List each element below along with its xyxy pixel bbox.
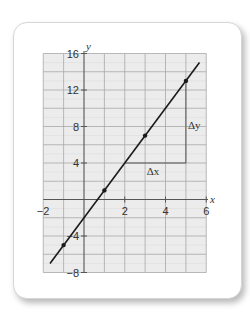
- data-point: [143, 133, 147, 137]
- y-axis-label: y: [85, 40, 91, 52]
- line-chart: −2 2 4 6 16 12 8 4 −4 −8 x y Δx Δy: [0, 0, 250, 312]
- y-tick-label: 16: [67, 48, 79, 60]
- data-point: [102, 188, 106, 192]
- data-point: [61, 243, 65, 247]
- delta-x-label: Δx: [147, 165, 160, 177]
- x-tick-label: 2: [122, 205, 128, 217]
- y-tick-label: −4: [66, 230, 79, 242]
- x-tick-label: 6: [203, 205, 209, 217]
- x-axis-label: x: [209, 193, 215, 205]
- delta-y-label: Δy: [188, 119, 201, 131]
- x-tick-label: −2: [37, 205, 50, 217]
- data-point: [184, 79, 188, 83]
- y-tick-label: 4: [73, 157, 79, 169]
- y-tick-label: 8: [73, 121, 79, 133]
- x-tick-label: 4: [162, 205, 168, 217]
- y-tick-label: 12: [67, 84, 79, 96]
- y-tick-label: −8: [66, 267, 79, 279]
